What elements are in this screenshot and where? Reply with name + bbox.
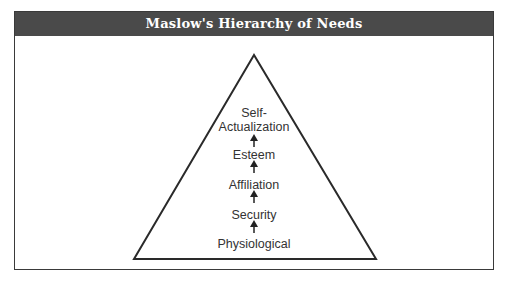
level-physiological: Physiological [184, 237, 324, 251]
level-affiliation: Affiliation [184, 178, 324, 192]
level-security: Security [184, 208, 324, 222]
level-self-actualization: Self- Actualization [184, 106, 324, 134]
arrow-up-icon [250, 134, 258, 147]
level-label-line1: Self- [184, 106, 324, 120]
level-label-line2: Actualization [184, 120, 324, 134]
level-esteem: Esteem [184, 148, 324, 162]
